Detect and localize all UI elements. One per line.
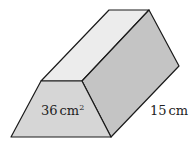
- area-label: 36cm2: [41, 103, 84, 118]
- length-label: 15cm: [150, 103, 188, 118]
- prism-diagram: 36cm2 15cm: [0, 0, 191, 145]
